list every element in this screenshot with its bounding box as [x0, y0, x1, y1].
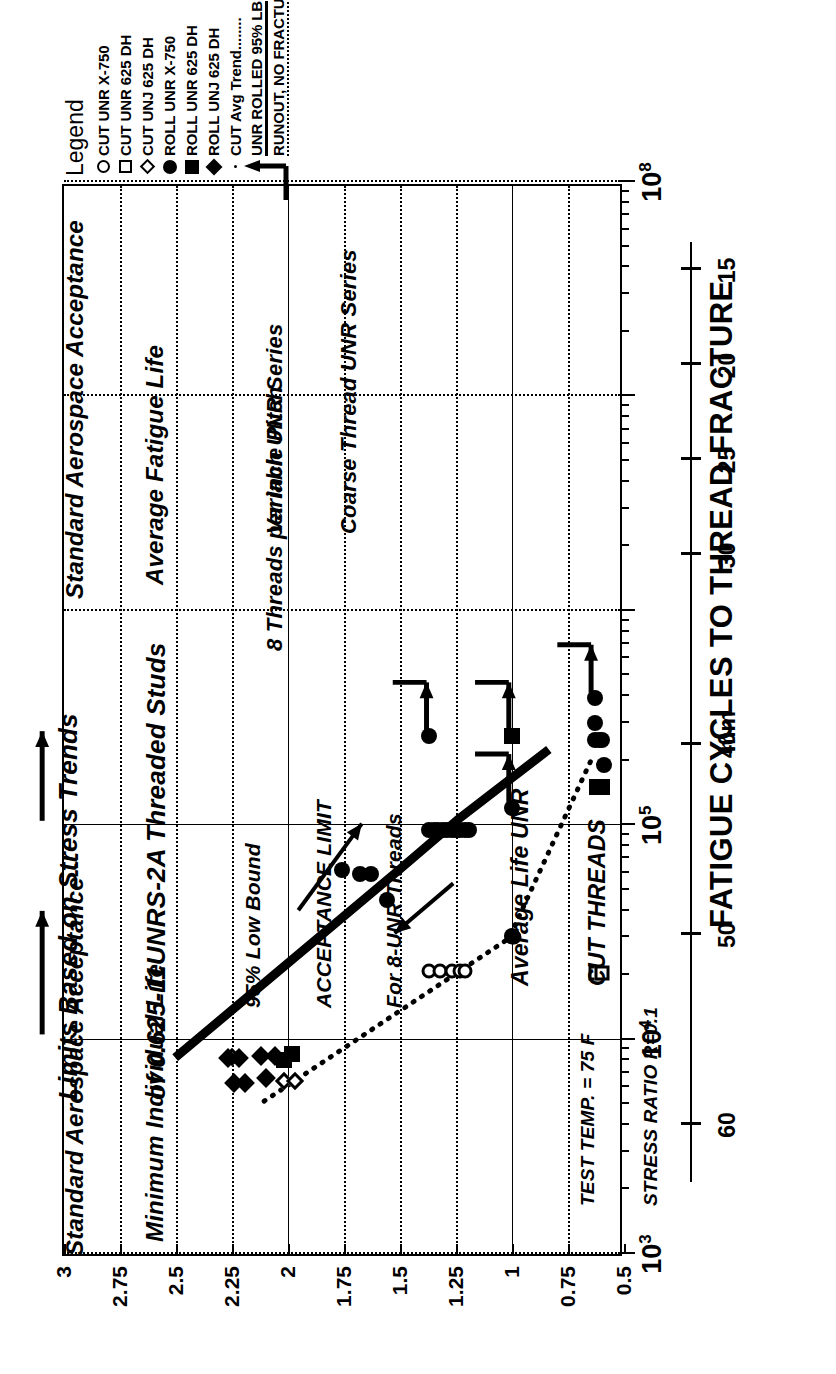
annotation-line: CUT THREADS: [585, 789, 611, 986]
legend-symbol-diamond-open-icon: [142, 156, 153, 178]
y-axis-tick-label: 3: [52, 1266, 76, 1278]
legend-item-label: ROLL UNJ 625 DH: [205, 28, 222, 156]
x-axis-minor-tick: [620, 213, 629, 215]
y-axis-tick: [456, 1244, 458, 1254]
annotation-line: For 8-UNR Threads: [382, 800, 406, 1008]
x-axis-minor-tick: [620, 694, 629, 696]
figure-title-line: Limits Based on Stress Trends: [54, 643, 83, 1100]
mm-axis-tick-label: 25: [714, 448, 741, 474]
figure-title: Limits Based on Stress Trends of 0.625-1…: [0, 643, 229, 1100]
x-axis-minor-tick: [620, 292, 629, 294]
legend-item: CUT UNJ 625 DH: [137, 10, 158, 178]
x-axis-minor-tick: [620, 459, 629, 461]
mm-axis-tick: [681, 362, 701, 365]
x-axis-minor-tick: [620, 190, 629, 192]
x-axis-minor-tick: [620, 330, 629, 332]
legend-item-label: CUT UNR X-750: [95, 46, 112, 156]
legend-item: ROLL UNR X-750: [159, 10, 180, 178]
y-axis-tick: [344, 1244, 346, 1254]
annotation-line: Coarse Thread UNR Series: [337, 249, 362, 534]
y-axis-tick-label: 0.5: [612, 1266, 636, 1295]
annotation-line: ACCEPTANCE LIMIT: [312, 800, 336, 1008]
legend-symbol-square-fill-icon: [185, 156, 199, 178]
x-axis-minor-tick: [620, 673, 629, 675]
annotation-line: Average Life UNR: [508, 789, 534, 986]
mm-axis-title: mm: [714, 711, 741, 752]
x-axis-minor-tick: [620, 442, 629, 444]
legend-item-label: CUT UNJ 625 DH: [139, 37, 156, 156]
x-axis-minor-tick: [620, 265, 629, 267]
x-axis-minor-tick: [620, 480, 629, 482]
x-axis-minor-tick: [620, 245, 629, 247]
x-axis-minor-tick: [620, 642, 629, 644]
mm-axis-tick-label: 20: [714, 353, 741, 379]
legend-item-label: RUNOUT, NO FRACTURE: [270, 0, 289, 156]
annotation-test-conditions: TEST TEMP. = 75 F STRESS RATIO R=0.1: [534, 1007, 704, 1206]
x-axis-minor-tick: [620, 507, 629, 509]
legend-symbol-circle-fill-icon: [163, 156, 177, 178]
annotation-variable-pitch: Variable Pitch Coarse Thread UNR Series: [214, 249, 411, 534]
annotation-arrow: [420, 682, 434, 730]
annotation-arrow: [584, 645, 598, 693]
x-axis-major-tick: [620, 180, 635, 182]
mm-axis-tick: [681, 1122, 701, 1125]
x-axis-minor-tick: [620, 544, 629, 546]
y-axis-tick: [568, 1244, 570, 1254]
legend-item: CUT UNR 625 DH: [115, 10, 136, 178]
y-axis-tick-label: 1.25: [444, 1266, 468, 1307]
annotation-standard-aerospace-average: Standard Aerospace Acceptance Average Fa…: [8, 220, 223, 599]
legend-item: ROLL UNR 625 DH: [181, 10, 202, 178]
annotation-line: 95% Low Bound: [241, 800, 265, 1008]
legend-item: ROLL UNJ 625 DH: [203, 10, 224, 178]
y-axis-tick-label: 0.75: [556, 1266, 580, 1307]
gridline-vertical: [64, 180, 620, 182]
annotation-line: STRESS RATIO R=0.1: [640, 1007, 661, 1206]
mm-axis-tick: [681, 268, 701, 271]
y-axis-tick: [120, 1244, 122, 1254]
x-axis-minor-tick: [620, 759, 629, 761]
mm-axis-tick-label: 15: [714, 258, 741, 284]
mm-axis-tick: [681, 457, 701, 460]
y-axis-tick: [512, 1244, 514, 1254]
x-axis-major-tick: [620, 609, 635, 611]
legend-symbol-square-open-icon: [119, 156, 132, 178]
x-axis-minor-tick: [620, 721, 629, 723]
mm-axis-tick: [681, 932, 701, 935]
figure-title-line: of 0.625-11UNRS-2A Threaded Studs: [142, 643, 171, 1100]
x-axis-minor-tick: [620, 656, 629, 658]
x-axis-minor-tick: [620, 415, 629, 417]
legend-symbol-circle-open-icon: [97, 156, 110, 178]
annotation-line: Standard Aerospace Acceptance: [62, 220, 89, 599]
annotation-average-life-cut-threads: Average Life UNR CUT THREADS: [456, 789, 662, 986]
mm-axis-tick: [681, 552, 701, 555]
y-axis-tick-label: 2.75: [108, 1266, 132, 1307]
y-axis-tick-label: 2: [276, 1266, 300, 1278]
x-axis-major-tick: [620, 394, 635, 396]
x-axis-minor-tick: [620, 201, 629, 203]
x-axis-tick-label: 103: [636, 1234, 668, 1274]
legend-title: Legend: [62, 10, 89, 176]
y-axis-tick: [624, 1244, 626, 1254]
mm-axis-tick-label: 30: [714, 543, 741, 569]
y-axis-tick-label: 1.5: [388, 1266, 412, 1295]
annotation-line: TEST TEMP. = 75 F: [577, 1007, 598, 1206]
rotated-figure-stage: 103104105108 Standard Aerospace Acceptan…: [0, 0, 836, 1374]
annotation-line: Average Fatigue Life: [142, 220, 169, 585]
y-axis-tick: [400, 1244, 402, 1254]
y-axis-tick-label: 1.75: [332, 1266, 356, 1307]
annotation-arrow: [502, 682, 516, 730]
x-axis-minor-tick: [620, 228, 629, 230]
y-axis-tick: [232, 1244, 234, 1254]
x-axis-minor-tick: [620, 619, 629, 621]
legend-item-label: UNR ROLLED 95% LB: [248, 1, 268, 156]
legend-item: CUT UNR X-750: [93, 10, 114, 178]
x-axis-minor-tick: [620, 428, 629, 430]
x-axis-tick-label: 108: [636, 162, 668, 202]
legend-symbol-diamond-fill-icon: [208, 156, 220, 178]
legend-item-label: ROLL UNR X-750: [161, 36, 178, 156]
annotation-line: Variable Pitch: [263, 249, 288, 534]
legend-symbol-dotted-line-icon: [234, 156, 237, 178]
y-axis-tick-label: 2.25: [220, 1266, 244, 1307]
legend-item-label: ROLL UNR 625 DH: [183, 25, 200, 156]
mm-axis: 60504030252015: [690, 242, 692, 1182]
